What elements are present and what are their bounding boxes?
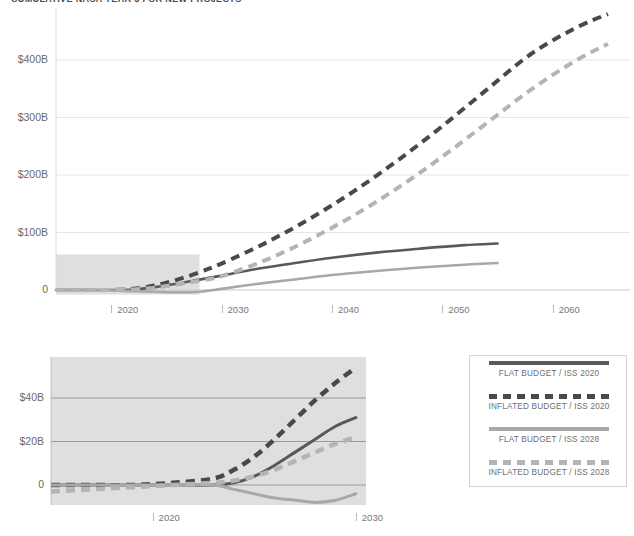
legend-swatch-dashed-line-icon [489, 460, 609, 465]
overview-chart: 0$100B$200B$300B$400B 202020302040205020… [0, 0, 634, 330]
detail-y-tick-label: $20B [0, 435, 44, 447]
overview-x-tick-label: 2050 [448, 304, 469, 315]
overview-x-tick [553, 305, 554, 313]
overview-plot-area [0, 0, 634, 330]
chart-page: CUMULATIVE NASA YEAR $ FOR NEW PROJECTS … [0, 0, 634, 536]
detail-y-tick-label: $40B [0, 391, 44, 403]
legend-swatch-solid-line-icon [489, 427, 609, 431]
legend-label: INFLATED BUDGET / ISS 2020 [470, 402, 628, 411]
detail-x-tick [356, 513, 357, 521]
overview-x-tick [222, 305, 223, 313]
overview-y-tick-label: 0 [0, 283, 48, 295]
overview-x-tick [111, 305, 112, 313]
overview-y-tick-label: $200B [0, 168, 48, 180]
legend-label: INFLATED BUDGET / ISS 2028 [470, 468, 628, 477]
detail-x-tick-label: 2030 [362, 512, 383, 523]
legend: FLAT BUDGET / ISS 2020INFLATED BUDGET / … [469, 355, 627, 487]
legend-label: FLAT BUDGET / ISS 2028 [470, 435, 628, 444]
detail-y-tick-label: 0 [0, 478, 44, 490]
overview-x-tick-label: 2020 [117, 304, 138, 315]
overview-y-tick-label: $300B [0, 111, 48, 123]
legend-swatch-solid-line-icon [489, 361, 609, 365]
overview-x-tick-label: 2030 [228, 304, 249, 315]
detail-x-tick-label: 2020 [159, 512, 180, 523]
legend-label: FLAT BUDGET / ISS 2020 [470, 369, 628, 378]
overview-x-tick-label: 2040 [338, 304, 359, 315]
detail-x-tick [153, 513, 154, 521]
overview-x-tick-label: 2060 [559, 304, 580, 315]
overview-y-tick-label: $100B [0, 226, 48, 238]
overview-x-tick [332, 305, 333, 313]
legend-swatch-dashed-line-icon [489, 394, 609, 399]
overview-y-tick-label: $400B [0, 53, 48, 65]
overview-x-tick [442, 305, 443, 313]
